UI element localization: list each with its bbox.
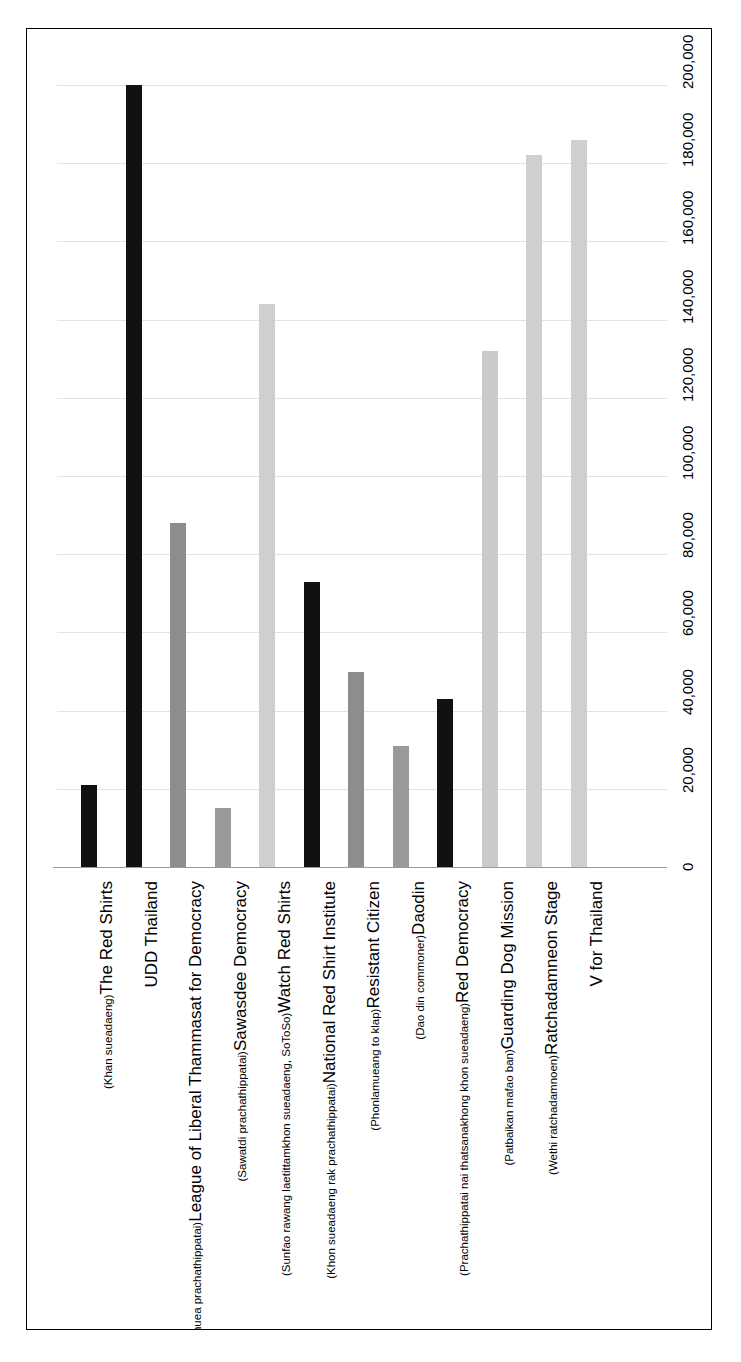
category-label-name: Red Democracy	[453, 881, 473, 1003]
category-label-name: League of Liberal Thammasat for Democrac…	[186, 881, 206, 1222]
bar	[215, 808, 231, 867]
category-label-transliteration: (Dao din commoner)	[414, 935, 426, 1040]
category-label-name: Resistant Citizen	[364, 881, 384, 1009]
tick-label: 80,000	[679, 512, 696, 558]
figure-frame: 020,00040,00060,00080,000100,000120,0001…	[26, 28, 712, 1330]
tick-label: 0	[679, 863, 696, 871]
axis-baseline	[53, 867, 667, 868]
tick-label: 120,000	[679, 348, 696, 402]
category-label: National Red Shirt Institute(Khon sueada…	[320, 881, 340, 1284]
category-label: Guarding Dog Mission(Patbaikan mafao ban…	[498, 881, 518, 1171]
category-label: The Red Shirts(Khan sueadaeng)	[97, 881, 117, 1094]
category-label-transliteration: (Prachathippatai nai thatsanakhong khon …	[458, 1003, 470, 1276]
bar	[81, 785, 97, 867]
category-label: Daodin(Dao din commoner)	[409, 881, 429, 1045]
category-label-name: Sawasdee Democracy	[231, 881, 251, 1051]
tick-label: 20,000	[679, 747, 696, 793]
category-label-transliteration: (Sunfao rawang laetittamkhon sueadaeng, …	[280, 1013, 292, 1276]
category-label: Red Democracy(Prachathippatai nai thatsa…	[453, 881, 473, 1281]
category-label-transliteration: (Khan sueadaeng)	[102, 994, 114, 1089]
gridline	[57, 85, 667, 86]
tick-label: 180,000	[679, 113, 696, 167]
category-label: UDD Thailand	[142, 881, 162, 987]
tick-label: 160,000	[679, 191, 696, 245]
tick-label: 100,000	[679, 426, 696, 480]
bar	[348, 672, 364, 868]
category-label-name: National Red Shirt Institute	[320, 881, 340, 1083]
tick-label: 200,000	[679, 35, 696, 89]
category-label-name: The Red Shirts	[97, 881, 117, 994]
category-label: League of Liberal Thammasat for Democrac…	[186, 881, 206, 1330]
bar	[259, 304, 275, 867]
category-label-transliteration: (Khon sueadaeng rak prachathippatai)	[325, 1083, 337, 1279]
category-label-transliteration: (Klum thammasat seri phuea prachathippat…	[191, 1222, 203, 1330]
category-label-name: Guarding Dog Mission	[498, 881, 518, 1049]
bar	[437, 699, 453, 867]
category-label-transliteration: (Patbaikan mafao ban)	[503, 1049, 515, 1165]
bar	[571, 140, 587, 867]
bar	[170, 523, 186, 867]
tick-label: 140,000	[679, 269, 696, 323]
category-label: Watch Red Shirts(Sunfao rawang laetittam…	[275, 881, 295, 1281]
tick-label: 40,000	[679, 669, 696, 715]
category-label-name: Watch Red Shirts	[275, 881, 295, 1013]
category-label: Resistant Citizen(Phonlamueang to klap)	[364, 881, 384, 1136]
bar	[482, 351, 498, 867]
bar	[304, 582, 320, 867]
category-label: V for Thailand	[587, 881, 607, 987]
bar	[393, 746, 409, 867]
bar	[526, 155, 542, 867]
bar	[126, 85, 142, 867]
category-label-name: V for Thailand	[587, 881, 607, 987]
category-label-name: UDD Thailand	[142, 881, 162, 987]
category-label-name: Daodin	[409, 881, 429, 935]
category-label-transliteration: (Sawatdi prachathippatai)	[236, 1051, 248, 1181]
category-label-transliteration: (Phonlamueang to klap)	[369, 1009, 381, 1131]
category-label: Ratchadamneon Stage(Wethi ratchadamnoen)	[542, 881, 562, 1180]
category-label-name: Ratchadamneon Stage	[542, 881, 562, 1055]
category-label: Sawasdee Democracy(Sawatdi prachathippat…	[231, 881, 251, 1187]
category-label-transliteration: (Wethi ratchadamnoen)	[547, 1055, 559, 1175]
tick-label: 60,000	[679, 591, 696, 637]
